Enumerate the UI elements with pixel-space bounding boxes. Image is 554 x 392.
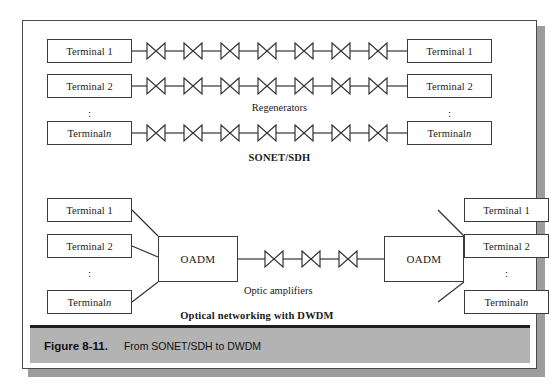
regenerator-icon [147, 43, 165, 59]
left-ellipsis-bottom: : [47, 268, 132, 279]
terminal-box-bottom-left-2[interactable]: Terminal 2 [47, 234, 132, 258]
terminal-label-suffix: n [106, 297, 111, 308]
terminal-label-suffix: n [106, 128, 111, 139]
regenerator-icon [332, 125, 350, 141]
terminal-label: Terminal [428, 128, 467, 139]
dwdm-title: Optical networking with DWDM [132, 310, 382, 321]
terminal-box-bottom-left-1[interactable]: Terminal 1 [47, 198, 132, 222]
regenerator-icon [147, 78, 165, 94]
oadm-box-left[interactable]: OADM [158, 236, 238, 282]
regenerator-icon [369, 43, 387, 59]
regenerator-icon [258, 78, 276, 94]
terminal-label: Terminal 1 [483, 205, 530, 216]
figure-page: Terminal 1 Terminal 2 : Terminal n Termi… [0, 0, 554, 392]
terminal-label: Terminal 1 [66, 205, 113, 216]
oadm-box-right[interactable]: OADM [384, 236, 464, 282]
terminal-label-suffix: n [466, 128, 471, 139]
optic-amplifiers-label: Optic amplifiers [244, 285, 313, 296]
regenerator-icon [369, 78, 387, 94]
figure-caption-text: From SONET/SDH to DWDM [124, 340, 261, 352]
terminal-box-bottom-left-n[interactable]: Terminal n [47, 290, 132, 314]
regenerator-icon [295, 43, 313, 59]
figure-caption-number: Figure 8-11. [44, 340, 108, 352]
regenerator-icon [184, 43, 202, 59]
terminal-label: Terminal [68, 297, 107, 308]
terminal-label: Terminal [68, 128, 107, 139]
regenerators-label-text: Regenerators [252, 102, 307, 113]
terminal-box-bottom-right-n[interactable]: Terminal n [464, 290, 549, 314]
oadm-label: OADM [181, 253, 216, 265]
terminal-box-top-left-2[interactable]: Terminal 2 [47, 74, 132, 98]
regenerator-icon [258, 125, 276, 141]
terminal-box-top-left-n[interactable]: Terminal n [47, 121, 132, 145]
terminal-label: Terminal 2 [66, 81, 113, 92]
terminal-box-bottom-right-2[interactable]: Terminal 2 [464, 234, 549, 258]
regenerator-row-1 [147, 43, 387, 59]
terminal-box-top-left-1[interactable]: Terminal 1 [47, 39, 132, 63]
terminal-box-top-right-2[interactable]: Terminal 2 [407, 74, 492, 98]
sonet-sdh-title-text: SONET/SDH [249, 152, 311, 163]
sonet-sdh-title: SONET/SDH [22, 152, 537, 163]
terminal-label-suffix: n [523, 297, 528, 308]
right-ellipsis-bottom: : [464, 268, 549, 279]
terminal-box-top-right-n[interactable]: Terminal n [407, 121, 492, 145]
terminal-label: Terminal 2 [483, 241, 530, 252]
terminal-label: Terminal 2 [66, 241, 113, 252]
regenerator-icon [184, 125, 202, 141]
regenerator-icon [184, 78, 202, 94]
dwdm-title-text: Optical networking with DWDM [180, 310, 333, 321]
optic-amplifiers-label-text: Optic amplifiers [244, 285, 313, 296]
terminal-box-bottom-right-1[interactable]: Terminal 1 [464, 198, 549, 222]
regenerator-icon [332, 43, 350, 59]
optic-amplifier-icon [302, 251, 320, 267]
diagram-canvas: Terminal 1 Terminal 2 : Terminal n Termi… [22, 20, 537, 369]
regenerator-icon [332, 78, 350, 94]
terminal-box-top-right-1[interactable]: Terminal 1 [407, 39, 492, 63]
regenerator-icon [221, 43, 239, 59]
oadm-label: OADM [407, 253, 442, 265]
regenerator-icon [147, 125, 165, 141]
terminal-label: Terminal 2 [426, 81, 473, 92]
regenerator-icon [295, 125, 313, 141]
regenerator-icon [221, 78, 239, 94]
regenerator-icon [258, 43, 276, 59]
optic-amplifier-icon [339, 251, 357, 267]
optic-amplifiers [265, 251, 357, 267]
regenerator-row-2 [147, 78, 387, 94]
regenerators-label: Regenerators [22, 102, 537, 113]
regenerator-icon [295, 78, 313, 94]
terminal-label: Terminal 1 [426, 46, 473, 57]
regenerator-icon [369, 125, 387, 141]
terminal-label: Terminal [485, 297, 524, 308]
optic-amplifier-icon [265, 251, 283, 267]
regenerator-row-n [147, 125, 387, 141]
regenerator-icon [221, 125, 239, 141]
ellipsis-glyph: : [505, 267, 508, 279]
left-fan-links [132, 210, 158, 302]
figure-caption-bar: Figure 8-11. From SONET/SDH to DWDM [30, 325, 530, 363]
ellipsis-glyph: : [88, 267, 91, 279]
terminal-label: Terminal 1 [66, 46, 113, 57]
